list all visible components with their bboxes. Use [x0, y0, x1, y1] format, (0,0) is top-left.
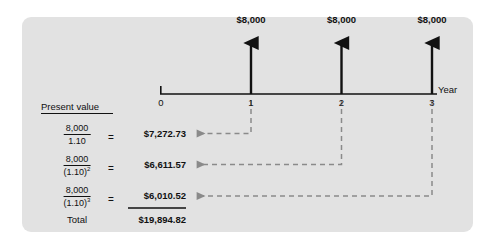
equals-sign-2: = — [108, 164, 114, 174]
present-value-amount-3: $6,010.52 — [144, 191, 186, 201]
equals-sign-3: = — [108, 195, 114, 205]
present-value-heading: Present value — [41, 102, 99, 112]
timeline-axis-label: Year — [438, 85, 457, 95]
fraction-denominator-3: (1.10)3 — [64, 197, 91, 208]
equals-sign-1: = — [108, 133, 114, 143]
timeline-tick-label-2: 2 — [339, 98, 344, 108]
fraction-exponent-3: 3 — [87, 197, 90, 203]
cash-flow-label-year-1: $8,000 — [236, 15, 265, 25]
timeline-tick-label-1: 1 — [248, 98, 253, 108]
total-amount: $19,894.82 — [138, 215, 186, 225]
timeline-tick-label-0: 0 — [158, 98, 163, 108]
discount-path-year-1 — [198, 100, 251, 134]
present-value-fraction-1: 8,000 1.10 — [64, 123, 91, 146]
fraction-denominator-1: 1.10 — [64, 135, 91, 146]
fraction-exponent-2: 2 — [87, 166, 90, 172]
fraction-numerator-2: 8,000 — [64, 154, 91, 166]
fraction-denominator-2: (1.10)2 — [64, 166, 91, 177]
fraction-numerator-3: 8,000 — [64, 185, 91, 197]
present-value-amount-1: $7,272.73 — [144, 129, 186, 139]
cash-flow-label-year-2: $8,000 — [327, 15, 356, 25]
discount-path-year-3 — [198, 100, 432, 196]
present-value-amount-2: $6,611.57 — [144, 160, 186, 170]
timeline-tick-label-3: 3 — [429, 98, 434, 108]
fraction-numerator-1: 8,000 — [64, 123, 91, 135]
present-value-fraction-2: 8,000 (1.10)2 — [64, 154, 91, 177]
discount-path-year-2 — [198, 100, 342, 165]
cash-flow-label-year-3: $8,000 — [417, 15, 446, 25]
present-value-fraction-3: 8,000 (1.10)3 — [64, 185, 91, 208]
total-label: Total — [67, 215, 87, 225]
